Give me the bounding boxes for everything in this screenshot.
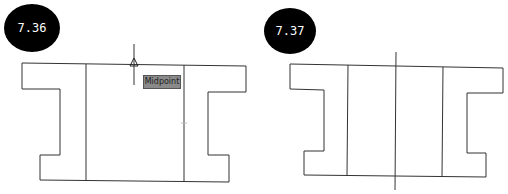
- center-line: [395, 52, 396, 190]
- right-profile-outline: [290, 64, 503, 177]
- cad-drawing: [0, 0, 508, 194]
- midpoint-tooltip: Midpoint: [143, 75, 181, 89]
- divider-line: [442, 67, 443, 176]
- divider-line: [347, 65, 348, 175]
